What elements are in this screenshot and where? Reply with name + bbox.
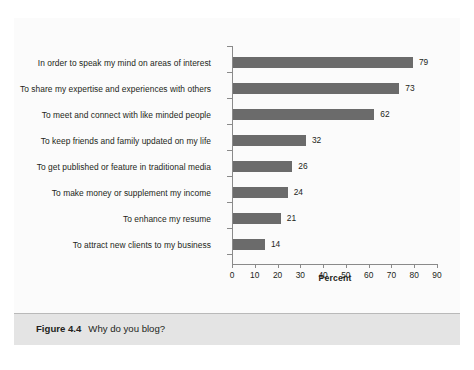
bar (233, 161, 292, 172)
x-axis-title: Percent (232, 273, 438, 283)
x-axis-tick (255, 264, 256, 268)
y-axis-tick (227, 254, 232, 255)
category-label: To meet and connect with like minded peo… (14, 102, 220, 128)
bar-value-label: 26 (292, 161, 307, 172)
bar-row: 32 (233, 128, 438, 154)
category-label: To get published or feature in tradition… (14, 154, 220, 180)
bar-row: 79 (233, 50, 438, 76)
bar-value-label: 32 (306, 135, 321, 146)
bar-value-label: 24 (288, 187, 303, 198)
x-axis-tick (323, 264, 324, 268)
category-label: To attract new clients to my business (14, 232, 220, 258)
category-label: To share my expertise and experiences wi… (14, 76, 220, 102)
bar (233, 109, 374, 120)
bar-value-label: 79 (413, 57, 428, 68)
bar (233, 187, 288, 198)
x-axis-tick (391, 264, 392, 268)
caption-title: Why do you blog? (81, 323, 165, 334)
bar-row: 73 (233, 76, 438, 102)
bar-value-label: 73 (399, 83, 414, 94)
category-label: To make money or supplement my income (14, 180, 220, 206)
x-axis-tick (300, 264, 301, 268)
bar-row: 24 (233, 180, 438, 206)
bar (233, 213, 281, 224)
bar-value-label: 21 (281, 213, 296, 224)
x-axis-tick (437, 264, 438, 268)
category-label: To keep friends and family updated on my… (14, 128, 220, 154)
x-axis-tick (346, 264, 347, 268)
bar-chart: In order to speak my mind on areas of in… (14, 18, 460, 293)
plot-area: 79736232262421140102030405060708090 (232, 50, 438, 264)
bar-row: 21 (233, 206, 438, 232)
y-axis-tick (227, 72, 232, 73)
y-axis-tick (227, 176, 232, 177)
bar-row: 26 (233, 154, 438, 180)
category-label: To enhance my resume (14, 206, 220, 232)
figure-caption: Figure 4.4Why do you blog? (14, 313, 460, 345)
caption-text: Figure 4.4Why do you blog? (36, 323, 165, 334)
x-axis-tick (278, 264, 279, 268)
x-axis-tick (414, 264, 415, 268)
bar-value-label: 62 (374, 109, 389, 120)
bar-value-label: 14 (265, 239, 280, 250)
bar-row: 14 (233, 232, 438, 258)
caption-number: Figure 4.4 (36, 323, 81, 334)
x-axis-tick (232, 264, 233, 268)
y-axis-tick (227, 98, 232, 99)
x-axis-tick (369, 264, 370, 268)
y-axis-tick (227, 150, 232, 151)
y-axis-tick (227, 124, 232, 125)
category-axis-labels: In order to speak my mind on areas of in… (14, 50, 220, 258)
figure-panel: In order to speak my mind on areas of in… (14, 18, 460, 345)
y-axis-tick (227, 202, 232, 203)
category-label: In order to speak my mind on areas of in… (14, 50, 220, 76)
bar (233, 239, 265, 250)
bar (233, 57, 413, 68)
bar-row: 62 (233, 102, 438, 128)
bar (233, 83, 399, 94)
bar (233, 135, 306, 146)
y-axis-tick (227, 46, 232, 47)
y-axis-tick (227, 228, 232, 229)
x-axis-line (232, 264, 437, 265)
